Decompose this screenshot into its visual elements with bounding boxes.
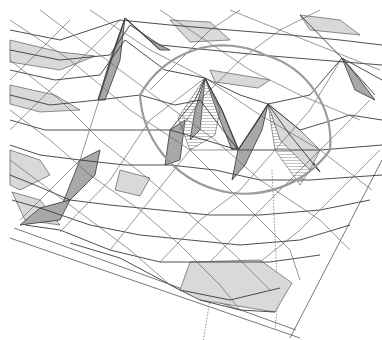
base-border	[10, 160, 382, 340]
terrain-mesh-figure: Perspective line rendering of a triangul…	[0, 0, 382, 340]
terrain-mesh-drawing	[0, 0, 382, 340]
